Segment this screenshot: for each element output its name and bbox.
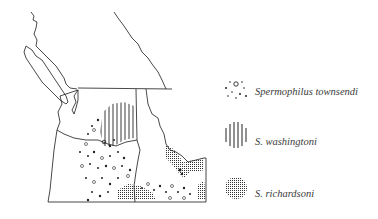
legend-item-s-washingtoni: S. washingtoni	[220, 120, 378, 150]
legend-item-s-richardsoni: S. richardsoni	[220, 174, 378, 204]
map-outline	[0, 0, 220, 219]
distribution-map-figure: Spermophilus townsendi S. washingtoni	[0, 0, 378, 219]
legend-label: S. richardsoni	[255, 188, 314, 199]
legend-item-s-townsendi: Spermophilus townsendi	[220, 76, 378, 106]
legend-label: Spermophilus townsendi	[255, 86, 358, 97]
vertical-stripes-icon	[222, 120, 252, 150]
bc-coastline	[24, 12, 78, 114]
range-s-washingtoni	[100, 102, 134, 146]
legend-label: S. washingtoni	[255, 136, 317, 147]
stipple-pattern-icon	[222, 174, 252, 204]
map-legend: Spermophilus townsendi S. washingtoni	[220, 60, 378, 210]
range-s-richardsoni	[118, 145, 206, 200]
dotted-pattern-icon	[222, 76, 252, 106]
